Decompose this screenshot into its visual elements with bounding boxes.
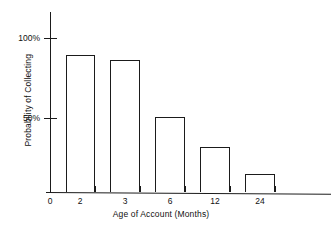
x-tick-mark-3a	[110, 186, 111, 192]
bar-age-6	[155, 117, 185, 192]
x-tick-mark-12b	[230, 186, 231, 192]
bar-age-12	[200, 147, 230, 192]
y-tick-label-100: 100%	[0, 34, 40, 43]
x-tick-mark-2b	[95, 186, 96, 192]
y-axis-title: Probability of Collecting	[24, 25, 33, 175]
x-tick-label-0: 0	[35, 197, 65, 206]
x-tick-mark-6b	[185, 186, 186, 192]
x-tick-mark-2a	[66, 186, 67, 192]
x-axis-title: Age of Account (Months)	[46, 210, 276, 219]
y-tick-mark-50	[44, 118, 57, 119]
bar-age-24	[245, 174, 275, 192]
x-tick-label-12: 12	[200, 197, 230, 206]
x-tick-label-2: 2	[65, 197, 95, 206]
x-tick-label-24: 24	[245, 197, 275, 206]
x-tick-mark-0	[50, 186, 51, 192]
x-tick-label-3: 3	[110, 197, 140, 206]
y-tick-mark-100	[44, 38, 57, 39]
x-tick-mark-24a	[245, 186, 246, 192]
x-tick-mark-6a	[155, 186, 156, 192]
x-tick-mark-24b	[275, 186, 276, 192]
bar-age-2	[66, 55, 95, 192]
x-axis-line	[46, 192, 331, 195]
x-tick-label-6: 6	[155, 197, 185, 206]
y-tick-label-50: 50%	[0, 114, 40, 123]
bar-chart: Probability of Collecting 100% 50% 0 2 3…	[0, 0, 336, 235]
x-tick-mark-3b	[140, 186, 141, 192]
bar-age-3	[110, 60, 140, 192]
x-tick-mark-12a	[200, 186, 201, 192]
